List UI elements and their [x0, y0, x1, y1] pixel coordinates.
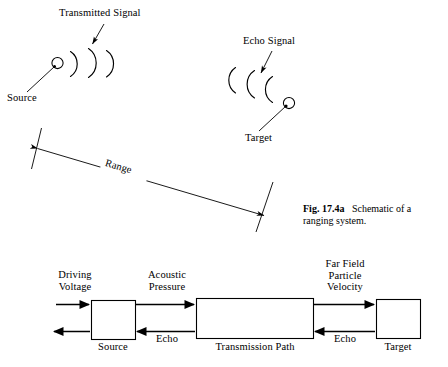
transmitted-signal-label: Transmitted Signal	[59, 7, 141, 19]
echo-signal-label: Echo Signal	[243, 35, 295, 47]
signal-label-echo-left: Echo	[156, 333, 178, 345]
source-leader-line	[27, 67, 55, 93]
target-leader-line	[259, 106, 286, 131]
source-label: Source	[7, 92, 37, 104]
range-tick-left	[32, 128, 42, 169]
echo-signal-leader-arrow	[261, 51, 272, 73]
block-label-source: Source	[98, 341, 128, 353]
transmitted-signal-arcs	[71, 49, 114, 78]
target-label: Target	[245, 132, 272, 144]
figure-caption: Fig. 17.4a Schematic of a ranging system…	[303, 203, 443, 227]
block-source	[92, 301, 136, 340]
range-dimension-arrow	[38, 149, 265, 216]
signal-label-far-field-particle-velocity: Far Field Particle Velocity	[325, 258, 364, 293]
diagram-vector-layer	[0, 0, 448, 367]
signal-label-driving-voltage: Driving Voltage	[58, 269, 91, 292]
block-label-transmission-path: Transmission Path	[215, 341, 294, 353]
block-transmission-path	[197, 299, 314, 339]
figure-caption-number: Fig. 17.4a	[303, 203, 344, 214]
figure-caption-spacer	[344, 203, 352, 214]
block-target	[377, 300, 421, 339]
range-tick-right	[256, 182, 273, 232]
signal-label-acoustic-pressure: Acoustic Pressure	[148, 269, 186, 292]
transmitted-signal-leader-arrow	[93, 24, 105, 44]
block-label-target: Target	[384, 341, 411, 353]
figure-root: Transmitted Signal Echo Signal Source Ta…	[0, 0, 448, 367]
echo-signal-arcs	[229, 68, 273, 103]
signal-label-echo-right: Echo	[334, 333, 356, 345]
